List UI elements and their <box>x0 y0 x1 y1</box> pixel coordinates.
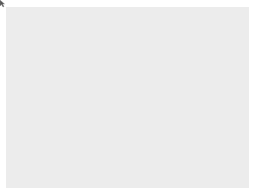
window-frame <box>0 0 259 195</box>
cursor-pointer-icon <box>0 0 5 7</box>
drawing-layer <box>0 0 259 195</box>
